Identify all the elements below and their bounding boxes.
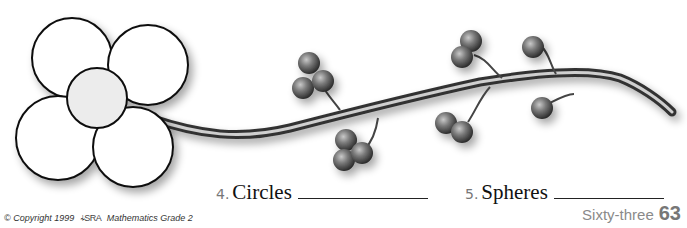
question-number: 5.	[465, 186, 478, 202]
question-circles: 4.Circles	[216, 180, 428, 205]
copyright-footer: © Copyright 1999 ⍭SRA Mathematics Grade …	[4, 213, 193, 224]
berry-spheres	[292, 30, 553, 171]
question-label: Circles	[232, 180, 291, 204]
page-number-footer: Sixty-three63	[582, 202, 681, 225]
page-number-word: Sixty-three	[582, 206, 654, 223]
flower	[16, 18, 188, 187]
answer-blank-circles[interactable]	[298, 182, 428, 199]
question-number: 4.	[216, 186, 229, 202]
page-number: 63	[659, 202, 681, 224]
publisher-logo-icon: ⍭SRA	[80, 213, 102, 223]
stem	[150, 72, 672, 134]
book-title: Mathematics Grade 2	[107, 213, 193, 223]
copyright-text: © Copyright 1999	[4, 213, 74, 223]
answer-blank-spheres[interactable]	[554, 182, 664, 199]
question-label: Spheres	[481, 180, 548, 204]
